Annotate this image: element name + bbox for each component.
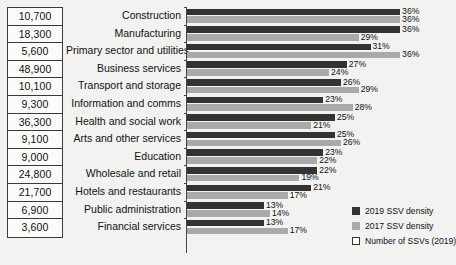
legend-item: 2019 SSV density — [352, 203, 456, 218]
bar-2017 — [187, 122, 311, 129]
bar-row: 25%21% — [187, 113, 450, 131]
bar-value-label: 26% — [341, 139, 360, 146]
bar-2017 — [187, 16, 400, 23]
bar-2019 — [187, 167, 317, 174]
bar-value-label: 36% — [400, 26, 419, 33]
legend-swatch-icon — [352, 222, 360, 230]
bar-value-label: 29% — [359, 86, 378, 93]
ssv-count-table: 10,70018,3005,60048,90010,1009,30036,300… — [7, 7, 63, 238]
bar-value-label: 28% — [353, 104, 372, 111]
bar-value-label: 13% — [264, 219, 283, 226]
category-label-column: ConstructionManufacturingPrimary sector … — [66, 7, 184, 236]
chart-legend: 2019 SSV density2017 SSV densityNumber o… — [352, 203, 456, 248]
bar-2017 — [187, 157, 317, 164]
bar-2019 — [187, 97, 323, 104]
bar-row: 23%28% — [187, 95, 450, 113]
ssv-density-chart: 10,70018,3005,60048,90010,1009,30036,300… — [0, 0, 456, 265]
legend-item: 2017 SSV density — [352, 218, 456, 233]
bar-2017 — [187, 175, 299, 182]
bar-row: 22%19% — [187, 165, 450, 183]
bar-2017 — [187, 228, 288, 235]
category-label: Arts and other services — [66, 130, 184, 148]
bar-2019 — [187, 9, 400, 16]
bar-value-label: 23% — [323, 96, 342, 103]
legend-item: Number of SSVs (2019) — [352, 233, 456, 248]
ssv-count-cell: 48,900 — [8, 61, 62, 79]
bar-value-label: 22% — [317, 157, 336, 164]
ssv-count-cell: 21,700 — [8, 184, 62, 202]
bar-row: 36%29% — [187, 25, 450, 43]
ssv-count-cell: 3,600 — [8, 219, 62, 237]
legend-label: Number of SSVs (2019) — [365, 236, 456, 246]
ssv-count-cell: 9,300 — [8, 96, 62, 114]
bar-2019 — [187, 202, 264, 209]
ssv-count-cell: 5,600 — [8, 43, 62, 61]
bar-value-label: 22% — [317, 167, 336, 174]
bar-value-label: 21% — [311, 122, 330, 129]
bar-value-label: 21% — [311, 184, 330, 191]
bar-value-label: 26% — [341, 79, 360, 86]
category-label: Primary sector and utilities — [66, 42, 184, 60]
bar-2019 — [187, 132, 335, 139]
bar-2017 — [187, 104, 353, 111]
bar-value-label: 25% — [335, 114, 354, 121]
bar-value-label: 29% — [359, 34, 378, 41]
bar-2017 — [187, 210, 270, 217]
bar-row: 25%26% — [187, 130, 450, 148]
bar-value-label: 14% — [270, 210, 289, 217]
bar-2019 — [187, 220, 264, 227]
bar-value-label: 36% — [400, 51, 419, 58]
bar-value-label: 36% — [400, 16, 419, 23]
bar-2017 — [187, 87, 359, 94]
category-label: Business services — [66, 60, 184, 78]
legend-swatch-icon — [352, 207, 360, 215]
category-label: Health and social work — [66, 113, 184, 131]
bar-value-label: 17% — [288, 192, 307, 199]
legend-label: 2019 SSV density — [365, 206, 433, 216]
bar-value-label: 17% — [288, 227, 307, 234]
bar-2019 — [187, 79, 341, 86]
bar-row: 23%22% — [187, 148, 450, 166]
category-label: Education — [66, 148, 184, 166]
bar-2019 — [187, 61, 347, 68]
bar-row: 31%36% — [187, 42, 450, 60]
ssv-count-cell: 18,300 — [8, 26, 62, 44]
ssv-count-cell: 6,900 — [8, 202, 62, 220]
bar-value-label: 24% — [329, 69, 348, 76]
category-label: Hotels and restaurants — [66, 183, 184, 201]
ssv-count-cell: 10,700 — [8, 8, 62, 26]
ssv-count-cell: 9,100 — [8, 131, 62, 149]
category-label: Wholesale and retail — [66, 165, 184, 183]
bar-2019 — [187, 149, 323, 156]
category-label: Construction — [66, 7, 184, 25]
bar-2017 — [187, 140, 341, 147]
bar-2019 — [187, 44, 371, 51]
bar-value-label: 19% — [299, 174, 318, 181]
bar-value-label: 31% — [371, 43, 390, 50]
category-label: Transport and storage — [66, 77, 184, 95]
bar-row: 27%24% — [187, 60, 450, 78]
bar-row: 36%36% — [187, 7, 450, 25]
ssv-count-cell: 9,000 — [8, 149, 62, 167]
bar-row: 26%29% — [187, 77, 450, 95]
category-label: Manufacturing — [66, 25, 184, 43]
ssv-count-cell: 36,300 — [8, 114, 62, 132]
bar-2017 — [187, 192, 288, 199]
ssv-count-cell: 24,800 — [8, 166, 62, 184]
bar-2017 — [187, 34, 359, 41]
legend-label: 2017 SSV density — [365, 221, 433, 231]
category-label: Financial services — [66, 218, 184, 236]
bar-2017 — [187, 52, 400, 59]
category-label: Public administration — [66, 201, 184, 219]
ssv-count-cell: 10,100 — [8, 78, 62, 96]
bar-2017 — [187, 69, 329, 76]
bar-value-label: 27% — [347, 61, 366, 68]
legend-swatch-icon — [352, 237, 360, 245]
category-label: Information and comms — [66, 95, 184, 113]
bar-row: 21%17% — [187, 183, 450, 201]
